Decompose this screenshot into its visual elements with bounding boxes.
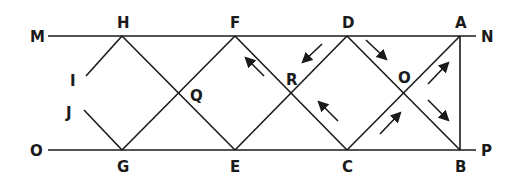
label-P: P — [481, 142, 492, 160]
arrow-icon-up-right-CO — [380, 113, 400, 134]
label-O: O — [30, 142, 43, 160]
label-C: C — [342, 158, 353, 176]
label-J: J — [65, 104, 72, 122]
arrow-icon-down-left-RD — [303, 44, 322, 62]
label-O-center: O — [398, 69, 411, 87]
segment-IH — [86, 36, 122, 76]
label-E: E — [230, 158, 240, 176]
arrow-icon-up-left-FR — [246, 58, 264, 76]
label-H: H — [117, 14, 130, 32]
label-F: F — [230, 14, 240, 32]
label-I: I — [70, 72, 76, 90]
label-B: B — [455, 158, 466, 176]
arrow-icon-down-right-DO — [366, 40, 386, 59]
label-M: M — [30, 28, 45, 46]
label-Q: Q — [190, 87, 203, 105]
segment-JG — [84, 110, 122, 150]
arrow-icon-up-left-CR — [319, 102, 338, 121]
reflection-diagram: M N O P H F D A G E C B I J Q R O — [0, 0, 521, 179]
label-N: N — [481, 28, 494, 46]
label-D: D — [342, 14, 354, 32]
label-A: A — [455, 14, 467, 32]
label-R: R — [286, 71, 298, 89]
arrow-icon-down-right-OB — [428, 100, 448, 120]
label-G: G — [117, 158, 129, 176]
